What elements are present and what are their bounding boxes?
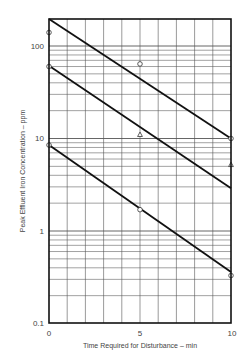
chart: 100 10 1 0.1 0 5 10 Time Required for Di… [0,0,243,364]
y-tick-10: 10 [35,134,44,143]
x-tick-5: 5 [138,329,143,338]
triangle-marker [138,132,143,136]
x-tick-0: 0 [47,329,52,338]
circle-marker [138,62,143,67]
x-axis-label: Time Required for Disturbance – min [83,342,197,350]
y-axis-label: Peak Effluent Iron Concentration – ppm [19,110,27,233]
circle-marker [138,207,143,212]
y-tick-1: 1 [40,227,45,236]
y-tick-100: 100 [31,42,45,51]
x-tick-10: 10 [228,329,237,338]
y-tick-0.1: 0.1 [33,319,45,328]
